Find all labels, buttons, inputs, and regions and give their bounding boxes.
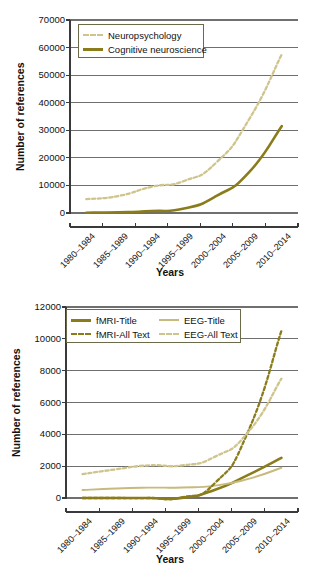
- dashed-line-key-icon: [71, 333, 91, 335]
- y-tick-label: 10000: [14, 333, 61, 344]
- solid-line-key-icon: [83, 48, 103, 51]
- legend-item-fmri-title: fMRI-Title: [67, 315, 155, 326]
- y-tick-label: 8000: [14, 365, 61, 376]
- chart-top-legend: Neuropsychology Cognitive neuroscience: [78, 24, 204, 58]
- chart-bottom: Number of references Years fMRI-Title EE…: [0, 287, 320, 574]
- dashed-line-key-icon: [83, 34, 103, 36]
- legend-item-neuropsychology: Neuropsychology: [79, 30, 181, 41]
- y-tick-label: 30000: [18, 124, 65, 135]
- chart-top: Number of references Years Neuropsycholo…: [0, 0, 320, 287]
- y-tick-label: 40000: [18, 97, 65, 108]
- y-tick-label: 10000: [18, 179, 65, 190]
- series-line-eeg-title: [83, 468, 282, 490]
- legend-item-eeg-title: EEG-Title: [155, 315, 225, 326]
- legend-item-cognitive-neuroscience: Cognitive neuroscience: [79, 44, 207, 55]
- series-line-cognitive-neuroscience: [86, 126, 281, 213]
- figure-container: Number of references Years Neuropsycholo…: [0, 0, 320, 574]
- legend-label-fmri-title: fMRI-Title: [96, 315, 137, 326]
- y-tick-label: 20000: [18, 152, 65, 163]
- y-tick-label: 50000: [18, 69, 65, 80]
- chart-top-x-axis-title: Years: [30, 266, 310, 278]
- series-line-eeg-all-text: [83, 379, 282, 475]
- y-tick-label: 6000: [14, 397, 61, 408]
- y-tick-label: 0: [14, 492, 61, 503]
- y-tick-label: 0: [18, 207, 65, 218]
- chart-bottom-x-axis-title: Years: [30, 553, 310, 565]
- legend-label-eeg-title: EEG-Title: [184, 315, 225, 326]
- y-tick-label: 4000: [14, 428, 61, 439]
- legend-label-fmri-all-text: fMRI-All Text: [96, 329, 150, 340]
- chart-bottom-legend: fMRI-Title EEG-Title fMRI-All Text EEG-A…: [66, 309, 241, 343]
- legend-label-cognitive-neuroscience: Cognitive neuroscience: [108, 44, 207, 55]
- series-line-neuropsychology: [86, 54, 281, 199]
- dashed-line-key-icon: [159, 333, 179, 335]
- legend-item-eeg-all-text: EEG-All Text: [155, 329, 238, 340]
- legend-label-eeg-all-text: EEG-All Text: [184, 329, 238, 340]
- y-tick-label: 60000: [18, 42, 65, 53]
- legend-label-neuropsychology: Neuropsychology: [108, 30, 181, 41]
- solid-line-key-icon: [159, 319, 179, 321]
- solid-line-key-icon: [71, 319, 91, 322]
- y-tick-label: 70000: [18, 14, 65, 25]
- legend-item-fmri-all-text: fMRI-All Text: [67, 329, 155, 340]
- y-tick-label: 2000: [14, 460, 61, 471]
- y-tick-label: 12000: [14, 301, 61, 312]
